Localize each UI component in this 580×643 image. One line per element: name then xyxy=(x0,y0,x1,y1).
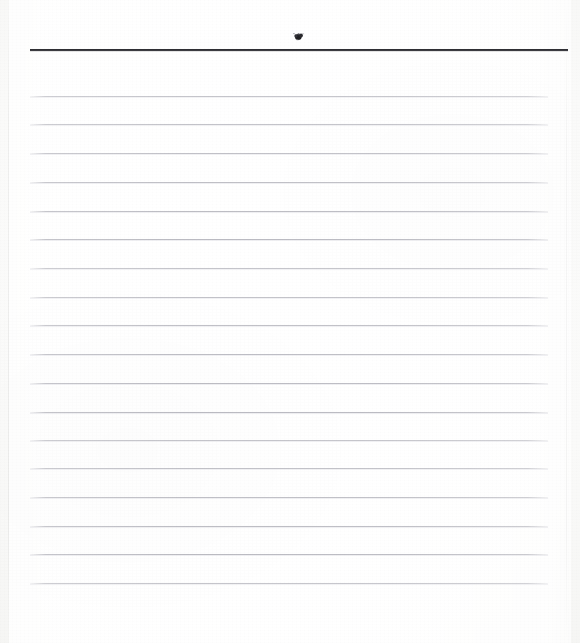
ruled-line xyxy=(30,526,548,527)
ruled-line xyxy=(30,239,548,240)
ruled-line xyxy=(30,583,548,584)
ruled-line xyxy=(30,268,548,269)
blank-footer-area xyxy=(0,585,580,643)
ruled-line xyxy=(30,412,548,413)
ruled-line xyxy=(30,124,548,125)
ruled-line xyxy=(30,440,548,441)
ruled-line xyxy=(30,354,548,355)
scanned-page: Blank Lined Page xyxy=(0,0,580,643)
ruled-line xyxy=(30,153,548,154)
ruled-line xyxy=(30,211,548,212)
ruled-line xyxy=(30,554,548,555)
ruled-line xyxy=(30,96,548,97)
ruled-line xyxy=(30,383,548,384)
ruled-line xyxy=(30,297,548,298)
ruled-line xyxy=(30,325,548,326)
ruled-line xyxy=(30,182,548,183)
ruled-line xyxy=(30,497,548,498)
ruled-line xyxy=(30,468,548,469)
ruled-lines-group xyxy=(0,0,580,643)
